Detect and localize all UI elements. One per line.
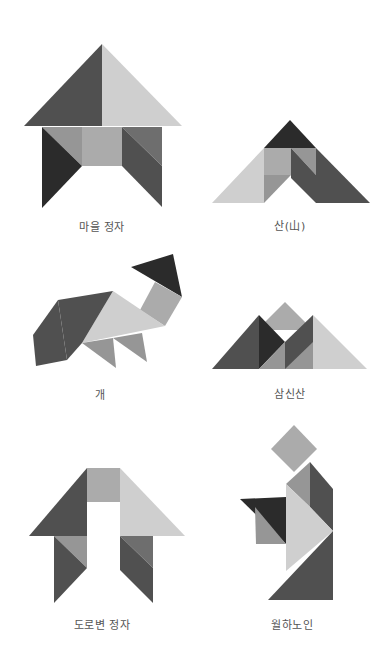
figure-label: 월하노인 <box>212 616 372 632</box>
tangram-village-pavilion <box>0 0 195 240</box>
figure-roadside-pavilion: 도로변 정자 <box>0 420 195 658</box>
figure-matchmaker-old-man: 월하노인 <box>195 420 390 658</box>
figure-three-mountains: 삼신산 <box>195 240 390 410</box>
figure-label: 개 <box>20 386 180 402</box>
figure-label: 삼신산 <box>210 385 370 401</box>
figure-label: 도로변 정자 <box>22 616 182 632</box>
figure-dog: 개 <box>0 240 195 410</box>
figure-label: 마을 정자 <box>22 218 182 234</box>
figure-mountain: 산(山) <box>195 100 390 240</box>
figure-label: 산(山) <box>210 217 370 233</box>
tangram-dog <box>0 240 195 410</box>
figure-village-pavilion: 마을 정자 <box>0 0 195 240</box>
